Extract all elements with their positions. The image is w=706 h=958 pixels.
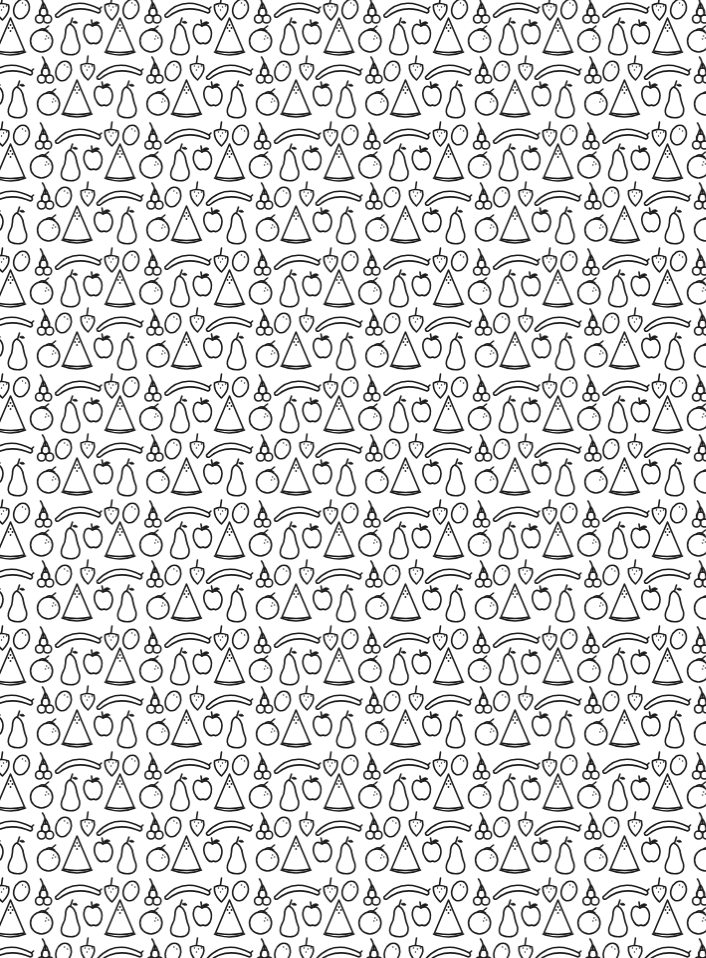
fruit-pattern	[0, 0, 706, 958]
pattern-svg	[0, 0, 706, 958]
fruit-pattern-background: Black line-art fruit pattern on white ba…	[0, 0, 706, 958]
